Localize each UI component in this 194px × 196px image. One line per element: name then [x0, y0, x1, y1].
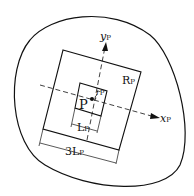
label-rp-small: rP: [96, 89, 105, 97]
y-axis-arrow: [102, 42, 108, 51]
x-axis-arrow: [150, 113, 160, 119]
label-lp: LP: [77, 122, 89, 133]
point-p: [90, 97, 94, 101]
label-3lp: 3LP: [65, 146, 84, 157]
label-xp: xP: [160, 113, 171, 124]
label-p: P: [79, 98, 88, 111]
3lp-ext-right: [116, 150, 119, 164]
label-rp: RP: [122, 75, 135, 86]
label-yp: yP: [100, 31, 111, 42]
lp-ext-right: [97, 116, 101, 133]
diagram: [0, 0, 194, 196]
